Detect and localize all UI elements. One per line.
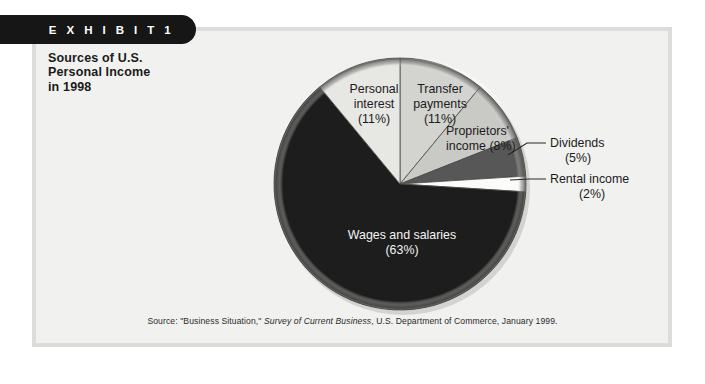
label-proprietors-income: Proprietors' income (8%) (446, 124, 516, 153)
rental-income-line-2: (2%) (579, 187, 605, 201)
page-title-line-1: Sources of U.S. (48, 51, 218, 65)
exhibit-tab-label: E X H I B I T 1 (49, 24, 174, 36)
wages-line-2: (63%) (385, 243, 418, 257)
source-note: Source: "Business Situation," Survey of … (0, 316, 705, 326)
transfer-payments-line-1: Transfer (417, 82, 463, 96)
dividends-line-1: Dividends (550, 136, 604, 150)
exhibit-tab: E X H I B I T 1 (0, 15, 196, 44)
label-rental-income: Rental income (2%) (550, 172, 629, 201)
rental-income-line-1: Rental income (550, 172, 629, 186)
wages-line-1: Wages and salaries (348, 228, 456, 242)
label-dividends: Dividends (5%) (550, 136, 604, 165)
personal-interest-line-1: Personal (350, 82, 399, 96)
page-title-line-3: in 1998 (48, 80, 218, 94)
transfer-payments-line-2: payments (413, 97, 467, 111)
personal-interest-line-3: (11%) (358, 112, 390, 126)
page-title-line-2: Personal Income (48, 65, 218, 79)
source-prefix: Source: "Business Situation," (147, 316, 264, 326)
page-title: Sources of U.S. Personal Income in 1998 (48, 51, 218, 94)
page-background: E X H I B I T 1 Sources of U.S. Personal… (0, 0, 705, 384)
proprietors-income-line-2: income (8%) (446, 139, 516, 153)
proprietors-income-line-1: Proprietors' (446, 124, 509, 138)
source-suffix: , U.S. Department of Commerce, January 1… (371, 316, 557, 326)
personal-interest-line-2: interest (354, 97, 395, 111)
dividends-line-2: (5%) (565, 151, 591, 165)
source-publication: Survey of Current Business (264, 316, 371, 326)
